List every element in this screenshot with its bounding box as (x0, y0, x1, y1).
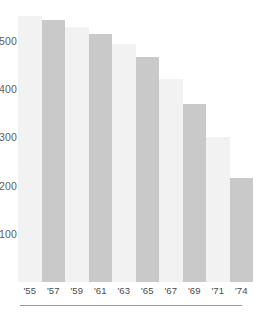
plot-area (18, 0, 253, 282)
bar[interactable] (159, 79, 183, 282)
bar-cell (65, 0, 89, 282)
bar[interactable] (112, 44, 136, 282)
bar[interactable] (65, 27, 89, 282)
x-axis-tick-label: '71 (206, 285, 230, 301)
x-axis-tick-label: '57 (42, 285, 66, 301)
bar-cell (159, 0, 183, 282)
y-axis: 500 400 300 200 100 (0, 0, 18, 282)
bar-chart: 500 400 300 200 100 '55'57'59'61'63'65'6… (0, 0, 260, 316)
x-axis-tick-label: '59 (65, 285, 89, 301)
x-axis-tick-label: '63 (112, 285, 136, 301)
x-axis-tick-label: '69 (183, 285, 207, 301)
bar-cell (183, 0, 207, 282)
x-axis-tick-label: '67 (159, 285, 183, 301)
bar-cell (89, 0, 113, 282)
y-axis-tick-label: 500 (0, 35, 17, 47)
axis-baseline-rule (20, 305, 242, 306)
bar[interactable] (89, 34, 113, 282)
x-axis-tick-label: '55 (18, 285, 42, 301)
bar[interactable] (136, 57, 160, 282)
y-axis-tick-label: 100 (0, 228, 17, 240)
x-axis-tick-label: '65 (136, 285, 160, 301)
bar-cell (136, 0, 160, 282)
bar-cell (18, 0, 42, 282)
bar[interactable] (230, 178, 254, 282)
y-axis-tick-label: 400 (0, 83, 17, 95)
y-axis-tick-label: 200 (0, 180, 17, 192)
bar[interactable] (42, 20, 66, 282)
bar[interactable] (18, 16, 42, 282)
x-axis-tick-label: '74 (230, 285, 254, 301)
bar-cell (42, 0, 66, 282)
bar[interactable] (206, 137, 230, 282)
y-axis-tick-label: 300 (0, 131, 17, 143)
bar[interactable] (183, 104, 207, 282)
bar-cell (230, 0, 254, 282)
bars-layer (18, 0, 253, 282)
bar-cell (112, 0, 136, 282)
x-axis-tick-label: '61 (89, 285, 113, 301)
bar-cell (206, 0, 230, 282)
x-axis: '55'57'59'61'63'65'67'69'71'74 (18, 285, 253, 301)
